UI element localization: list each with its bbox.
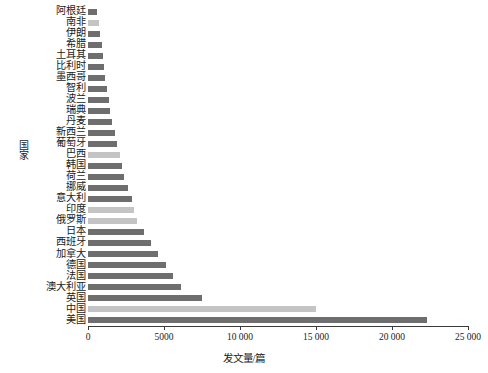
x-axis-tick-label: 10 000 <box>227 332 253 342</box>
category-label: 澳大利亚 <box>2 282 86 293</box>
category-label: 土耳其 <box>2 50 86 61</box>
bar-row <box>88 260 468 271</box>
x-axis-title: 发文量/篇 <box>0 350 488 365</box>
bar <box>88 20 99 26</box>
bar <box>88 141 117 147</box>
category-label: 瑞典 <box>2 105 86 116</box>
bar-row <box>88 271 468 282</box>
category-label: 智利 <box>2 83 86 94</box>
bar <box>88 97 109 103</box>
bar <box>88 152 120 158</box>
bar <box>88 108 110 114</box>
bar-row <box>88 282 468 293</box>
category-label: 希腊 <box>2 39 86 50</box>
bar-row <box>88 116 468 127</box>
bar <box>88 207 134 213</box>
horizontal-bar-chart: 国家 阿根廷南非伊朗希腊土耳其比利时墨西哥智利波兰瑞典丹麦新西兰葡萄牙巴西韩国荷… <box>0 0 488 373</box>
category-label: 英国 <box>2 293 86 304</box>
bar-row <box>88 238 468 249</box>
bar-row <box>88 149 468 160</box>
category-label: 波兰 <box>2 94 86 105</box>
x-axis-tick-label: 20 000 <box>379 332 405 342</box>
bar-row <box>88 17 468 28</box>
category-label: 日本 <box>2 226 86 237</box>
category-label: 南非 <box>2 17 86 28</box>
bar <box>88 240 151 246</box>
bar-row <box>88 194 468 205</box>
bar <box>88 317 427 323</box>
bar <box>88 262 166 268</box>
category-label: 美国 <box>2 315 86 326</box>
bar-row <box>88 28 468 39</box>
category-label: 法国 <box>2 271 86 282</box>
bar-row <box>88 205 468 216</box>
category-label: 墨西哥 <box>2 72 86 83</box>
x-axis-tick <box>392 326 393 330</box>
bar <box>88 295 202 301</box>
category-label: 加拿大 <box>2 249 86 260</box>
bar <box>88 9 97 15</box>
bar-row <box>88 39 468 50</box>
x-axis-tick <box>164 326 165 330</box>
bar-row <box>88 249 468 260</box>
bar <box>88 251 158 257</box>
x-axis-tick-label: 5000 <box>155 332 174 342</box>
category-label: 比利时 <box>2 61 86 72</box>
bar <box>88 196 132 202</box>
category-label: 德国 <box>2 260 86 271</box>
bar <box>88 185 128 191</box>
bar <box>88 174 124 180</box>
bar-row <box>88 315 468 326</box>
category-label: 西班牙 <box>2 237 86 248</box>
x-axis-line <box>88 326 468 327</box>
bar <box>88 31 100 37</box>
x-axis-tick-label: 15 000 <box>303 332 329 342</box>
x-axis-tick <box>468 326 469 330</box>
bar-row <box>88 94 468 105</box>
bar-row <box>88 6 468 17</box>
category-label: 伊朗 <box>2 28 86 39</box>
bar-row <box>88 50 468 61</box>
bar <box>88 163 122 169</box>
bar <box>88 306 316 312</box>
bar-row <box>88 61 468 72</box>
bar-row <box>88 105 468 116</box>
bar-row <box>88 72 468 83</box>
category-label: 阿根廷 <box>2 6 86 17</box>
bar <box>88 229 144 235</box>
bar-row <box>88 138 468 149</box>
bar-row <box>88 227 468 238</box>
bar <box>88 86 107 92</box>
bar <box>88 64 104 70</box>
bar-row <box>88 293 468 304</box>
x-axis-tick <box>316 326 317 330</box>
category-label: 中国 <box>2 304 86 315</box>
plot-area: 阿根廷南非伊朗希腊土耳其比利时墨西哥智利波兰瑞典丹麦新西兰葡萄牙巴西韩国荷兰挪威… <box>88 6 468 326</box>
bar-row <box>88 183 468 194</box>
bar <box>88 53 103 59</box>
bar-row <box>88 83 468 94</box>
bar <box>88 218 137 224</box>
x-axis-tick-label: 0 <box>86 332 91 342</box>
bar <box>88 42 102 48</box>
x-axis-tick <box>240 326 241 330</box>
category-label: 葡萄牙 <box>2 138 86 149</box>
bar-row <box>88 216 468 227</box>
bar <box>88 119 112 125</box>
bar <box>88 130 115 136</box>
bar <box>88 284 181 290</box>
bar-row <box>88 160 468 171</box>
bar-row <box>88 127 468 138</box>
bar <box>88 75 105 81</box>
bar <box>88 273 173 279</box>
x-axis-tick <box>88 326 89 330</box>
x-axis-tick-label: 25 000 <box>455 332 481 342</box>
bar-row <box>88 304 468 315</box>
bar-row <box>88 172 468 183</box>
